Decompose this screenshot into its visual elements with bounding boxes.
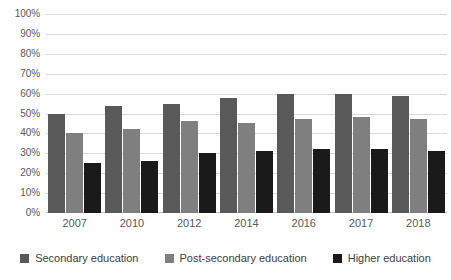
legend-swatch-icon [333, 254, 342, 263]
bar[interactable] [295, 119, 312, 213]
x-axis-tick-label: 2014 [218, 216, 275, 230]
x-axis: 2007201020122014201620172018 [46, 216, 447, 230]
bar[interactable] [238, 123, 255, 213]
bar-group [46, 14, 103, 213]
bar-group [161, 14, 218, 213]
legend-label: Higher education [348, 252, 431, 265]
bar[interactable] [353, 117, 370, 213]
y-axis-tick-label: 20% [20, 168, 40, 178]
y-axis-tick-label: 60% [20, 89, 40, 99]
bar[interactable] [220, 98, 237, 213]
bar-groups [46, 14, 447, 213]
bar[interactable] [277, 94, 294, 213]
bar[interactable] [66, 133, 83, 213]
bar[interactable] [84, 163, 101, 213]
x-axis-tick-label: 2010 [103, 216, 160, 230]
bar[interactable] [371, 149, 388, 213]
y-axis-tick-label: 50% [20, 109, 40, 119]
bar-group [218, 14, 275, 213]
bar-chart: 100%90%80%70%60%50%40%30%20%10%0% 200720… [0, 0, 451, 280]
y-axis-tick-label: 40% [20, 128, 40, 138]
bar[interactable] [105, 106, 122, 213]
legend-label: Secondary education [35, 252, 138, 265]
bar[interactable] [123, 129, 140, 213]
legend-label: Post-secondary education [180, 252, 307, 265]
x-axis-tick-label: 2018 [390, 216, 447, 230]
bar[interactable] [410, 119, 427, 213]
bar-group [275, 14, 332, 213]
legend-swatch-icon [165, 254, 174, 263]
y-axis-tick-label: 90% [20, 29, 40, 39]
chart-legend: Secondary educationPost-secondary educat… [0, 252, 451, 265]
bar-group [103, 14, 160, 213]
y-axis-tick-label: 80% [20, 49, 40, 59]
legend-item[interactable]: Post-secondary education [165, 252, 307, 265]
bar[interactable] [48, 114, 65, 214]
y-axis-tick-label: 10% [20, 188, 40, 198]
bar[interactable] [141, 161, 158, 213]
legend-item[interactable]: Secondary education [20, 252, 138, 265]
x-axis-tick-label: 2007 [46, 216, 103, 230]
bar[interactable] [428, 151, 445, 213]
bar-group [390, 14, 447, 213]
x-axis-tick-label: 2016 [275, 216, 332, 230]
y-axis-tick-label: 0% [26, 208, 40, 218]
x-axis-tick-label: 2017 [332, 216, 389, 230]
bar[interactable] [181, 121, 198, 213]
bar[interactable] [199, 153, 216, 213]
bar[interactable] [335, 94, 352, 213]
bar[interactable] [313, 149, 330, 213]
legend-item[interactable]: Higher education [333, 252, 431, 265]
bar[interactable] [392, 96, 409, 213]
legend-swatch-icon [20, 254, 29, 263]
bar[interactable] [163, 104, 180, 213]
y-axis-tick-label: 100% [15, 9, 40, 19]
bar-group [332, 14, 389, 213]
plot-area: 100%90%80%70%60%50%40%30%20%10%0% 200720… [0, 0, 451, 245]
bar[interactable] [256, 151, 273, 213]
x-axis-tick-label: 2012 [161, 216, 218, 230]
y-axis: 100%90%80%70%60%50%40%30%20%10%0% [0, 0, 44, 214]
y-axis-tick-label: 70% [20, 69, 40, 79]
y-axis-tick-label: 30% [20, 148, 40, 158]
